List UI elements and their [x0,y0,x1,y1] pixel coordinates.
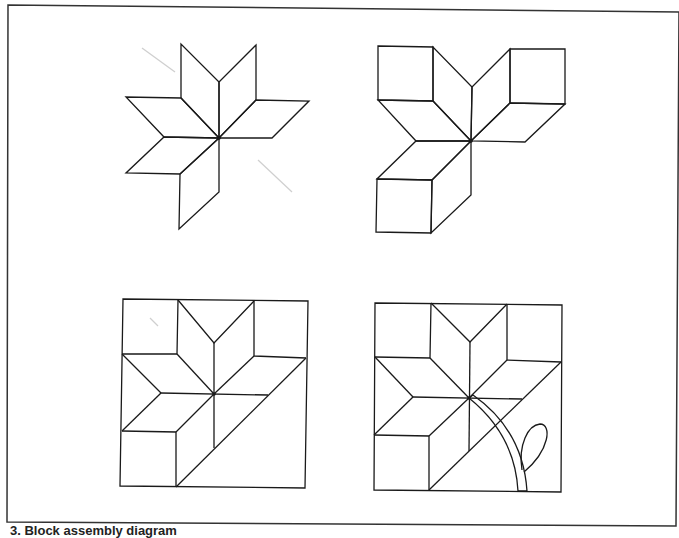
figure-frame [7,5,679,526]
bleed-through-marks [142,48,292,326]
panel-pieced-block [120,299,308,488]
center-point [217,136,221,140]
panel-star [126,44,309,229]
panel-appliqued-block [374,303,562,492]
figure-caption: 3. Block assembly diagram [10,524,177,538]
panel-star-with-squares [376,46,565,233]
leaf [521,424,547,472]
